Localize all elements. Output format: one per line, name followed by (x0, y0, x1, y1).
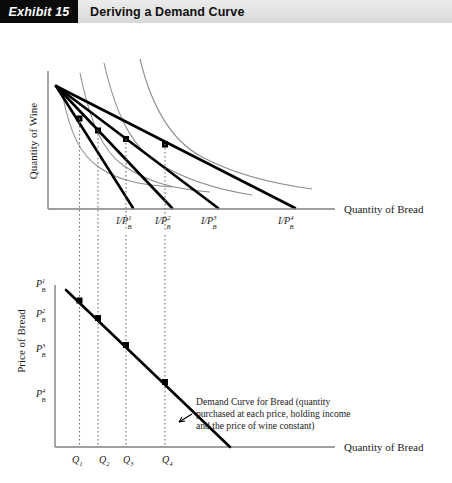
figure-container: Quantity of Wine Quantity of Bread I/P1B… (0, 23, 452, 483)
budget-line-4 (56, 86, 295, 208)
upper-x-tick-3: I/P3B (200, 214, 217, 230)
demand-point-4 (162, 379, 168, 385)
annotation-line-2: purchased at each price, holding income (196, 408, 351, 419)
lower-y-tick-2: P2B (35, 307, 46, 323)
lower-y-axis-label: Price of Bread (15, 309, 27, 373)
lower-x-tick-3: Q3 (123, 454, 134, 467)
demand-point-3 (123, 342, 129, 348)
lower-y-tick-labels: P1B P2B P3B P4B (35, 277, 46, 403)
exhibit-header: Exhibit 15 Deriving a Demand Curve (0, 0, 452, 23)
upper-x-tick-2: I/P2B (154, 214, 171, 230)
lower-y-tick-1: P1B (35, 277, 45, 293)
indifference-curve-panel: Quantity of Wine Quantity of Bread I/P1B… (27, 59, 424, 231)
lower-x-tick-4: Q4 (162, 454, 173, 467)
demand-points (77, 298, 169, 386)
upper-y-axis-label: Quantity of Wine (27, 103, 39, 179)
demand-curve-annotation: Demand Curve for Bread (quantity purchas… (179, 396, 351, 432)
demand-curve-panel: Price of Bread P1B P2B P3B P4B Demand Cu… (15, 235, 424, 467)
lower-guide-lines (80, 235, 166, 447)
lower-y-tick-3: P3B (35, 342, 46, 358)
demand-point-2 (95, 315, 101, 321)
budget-lines (56, 86, 295, 208)
figure-svg: Quantity of Wine Quantity of Bread I/P1B… (0, 23, 452, 483)
lower-x-tick-1: Q1 (72, 454, 83, 467)
lower-x-tick-labels: Q1 Q2 Q3 Q4 (72, 454, 173, 467)
upper-x-axis-label: Quantity of Bread (344, 203, 424, 215)
exhibit-number-tag: Exhibit 15 (0, 0, 78, 23)
budget-line-2 (56, 86, 172, 208)
lower-x-axis-label: Quantity of Bread (344, 441, 424, 453)
lower-y-tick-4: P4B (35, 387, 46, 403)
demand-point-1 (77, 298, 83, 304)
upper-x-tick-1: I/P1B (115, 214, 132, 230)
upper-x-tick-4: I/P4B (277, 214, 294, 230)
annotation-line-1: Demand Curve for Bread (quantity (196, 396, 330, 408)
exhibit-title: Deriving a Demand Curve (90, 0, 244, 23)
indifference-curves (62, 59, 312, 195)
annotation-line-3: and the price of wine constant) (196, 420, 315, 432)
upper-x-tick-labels: I/P1B I/P2B I/P3B I/P4B (115, 214, 294, 230)
lower-x-tick-2: Q2 (99, 454, 110, 467)
